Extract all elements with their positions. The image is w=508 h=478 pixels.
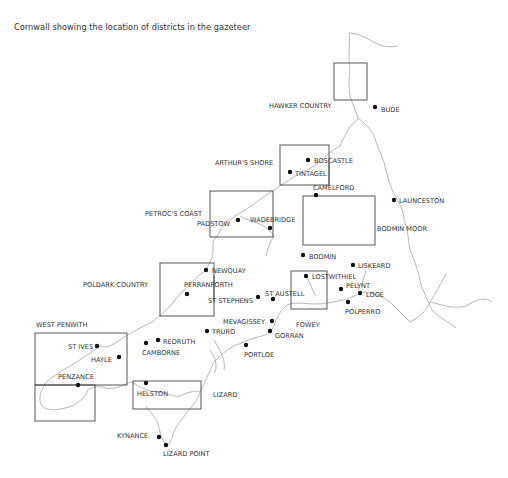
svg-text:LOSTWITHIEL: LOSTWITHIEL — [312, 273, 356, 281]
svg-text:PORTLOE: PORTLOE — [244, 351, 274, 359]
district-box-arthurs-shore[interactable] — [280, 145, 329, 185]
svg-text:WADEBRIDGE: WADEBRIDGE — [250, 216, 295, 224]
district-label-arthurs-shore[interactable]: ARTHUR'S SHORE — [215, 159, 273, 167]
place-bodmin[interactable]: BODMIN — [301, 253, 337, 261]
place-launceston[interactable]: LAUNCESTON — [392, 197, 444, 205]
svg-text:GORRAN: GORRAN — [275, 332, 304, 340]
svg-text:REDRUTH: REDRUTH — [163, 338, 195, 346]
svg-text:HELSTON: HELSTON — [137, 390, 168, 398]
district-label-lizard[interactable]: LIZARD — [213, 391, 237, 399]
coastline — [40, 33, 492, 446]
place-gorran[interactable]: GORRAN — [268, 329, 304, 340]
district-box-hawker-country[interactable] — [334, 63, 367, 100]
svg-text:POLPERRO: POLPERRO — [345, 308, 380, 316]
svg-text:ST IVES: ST IVES — [68, 343, 93, 351]
place-kynance[interactable]: KYNANCE — [117, 432, 161, 440]
svg-text:TRURO: TRURO — [211, 328, 235, 336]
svg-text:LAUNCESTON: LAUNCESTON — [399, 197, 444, 205]
place-looe[interactable]: LOOE — [358, 291, 384, 299]
svg-text:ST AUSTELL: ST AUSTELL — [265, 290, 305, 298]
svg-text:LIZARD POINT: LIZARD POINT — [163, 450, 210, 458]
svg-text:LOOE: LOOE — [366, 291, 384, 299]
place-redruth[interactable]: REDRUTH — [156, 338, 195, 346]
place-polperro[interactable]: POLPERRO — [345, 300, 380, 316]
place-st-austell[interactable]: ST AUSTELL — [265, 290, 305, 301]
cornwall-map: HAWKER COUNTRY ARTHUR'S SHORE PETROC'S C… — [0, 0, 508, 478]
place-perranporth[interactable]: PERRANPORTH — [184, 281, 233, 296]
place-liskeard[interactable]: LISKEARD — [351, 262, 391, 270]
place-st-stephens[interactable]: ST STEPHENS — [208, 295, 260, 305]
district-box-bodmin-moor[interactable] — [303, 196, 375, 245]
svg-text:MEVAGISSEY: MEVAGISSEY — [223, 318, 266, 326]
svg-text:CAMBORNE: CAMBORNE — [142, 349, 180, 357]
place-lizard-point[interactable]: LIZARD POINT — [163, 443, 210, 458]
svg-text:CAMELFORD: CAMELFORD — [313, 184, 354, 192]
place-truro[interactable]: TRURO — [205, 328, 235, 336]
svg-text:PERRANPORTH: PERRANPORTH — [184, 281, 233, 289]
svg-text:PENZANCE: PENZANCE — [58, 373, 94, 381]
place-bude[interactable]: BUDE — [373, 105, 400, 114]
place-mevagissey[interactable]: MEVAGISSEY — [223, 318, 274, 326]
place-newquay[interactable]: NEWQUAY — [204, 267, 247, 275]
district-label-poldark-country[interactable]: POLDARK COUNTRY — [83, 281, 149, 289]
place-camelford[interactable]: CAMELFORD — [313, 184, 354, 197]
svg-text:BUDE: BUDE — [381, 106, 400, 114]
district-box-petrocs-coast[interactable] — [210, 191, 273, 237]
place-helston[interactable]: HELSTON — [137, 381, 168, 398]
svg-text:LISKEARD: LISKEARD — [358, 262, 390, 270]
district-box-west-penwith-lower[interactable] — [35, 385, 95, 421]
svg-text:ST STEPHENS: ST STEPHENS — [208, 297, 253, 305]
place-padstow[interactable]: PADSTOW — [197, 218, 240, 228]
svg-text:HAYLE: HAYLE — [91, 356, 112, 364]
district-label-west-penwith[interactable]: WEST PENWITH — [36, 321, 88, 329]
svg-text:BOSCASTLE: BOSCASTLE — [314, 157, 353, 165]
svg-text:TINTAGEL: TINTAGEL — [294, 170, 327, 178]
svg-text:KYNANCE: KYNANCE — [117, 432, 148, 440]
place-lostwithiel[interactable]: LOSTWITHIEL — [304, 273, 357, 281]
svg-text:PELYNT: PELYNT — [346, 282, 371, 290]
svg-text:PADSTOW: PADSTOW — [197, 220, 231, 228]
district-label-bodmin-moor[interactable]: BODMIN MOOR — [377, 225, 427, 233]
place-pelynt[interactable]: PELYNT — [339, 282, 371, 291]
district-label-fowey[interactable]: FOWEY — [296, 321, 321, 329]
svg-text:NEWQUAY: NEWQUAY — [212, 267, 247, 275]
svg-text:BODMIN: BODMIN — [309, 253, 336, 261]
place-boscastle[interactable]: BOSCASTLE — [306, 157, 353, 165]
place-portloe[interactable]: PORTLOE — [244, 343, 274, 359]
district-boxes — [35, 63, 375, 421]
district-labels: HAWKER COUNTRY ARTHUR'S SHORE PETROC'S C… — [36, 102, 427, 399]
district-label-petrocs-coast[interactable]: PETROC'S COAST — [145, 210, 203, 218]
place-hayle[interactable]: HAYLE — [91, 355, 121, 364]
district-label-hawker-country[interactable]: HAWKER COUNTRY — [269, 102, 333, 110]
